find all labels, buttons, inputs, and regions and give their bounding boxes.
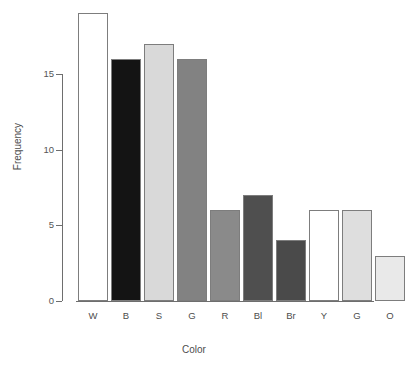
x-axis-tick-label: S — [144, 310, 174, 321]
x-axis-tick-label: G — [177, 310, 207, 321]
bar — [309, 210, 339, 301]
x-axis-tick-label: O — [375, 310, 405, 321]
bar — [375, 256, 405, 301]
bar — [111, 59, 141, 301]
y-axis-tick — [56, 301, 62, 302]
x-axis-title: Color — [0, 344, 388, 355]
bar — [210, 210, 240, 301]
x-axis-tick-label: B — [111, 310, 141, 321]
x-axis-tick-label: G — [342, 310, 372, 321]
bar — [276, 240, 306, 301]
bar — [177, 59, 207, 301]
x-axis-tick-label: Bl — [243, 310, 273, 321]
bar — [78, 13, 108, 301]
bars-layer — [0, 0, 388, 301]
x-axis-tick-label: W — [78, 310, 108, 321]
x-axis-tick-label: R — [210, 310, 240, 321]
bar — [243, 195, 273, 301]
bar — [342, 210, 372, 301]
bar — [144, 44, 174, 301]
x-axis-tick-label: Y — [309, 310, 339, 321]
x-axis-line — [76, 301, 374, 302]
x-axis-tick-label: Br — [276, 310, 306, 321]
